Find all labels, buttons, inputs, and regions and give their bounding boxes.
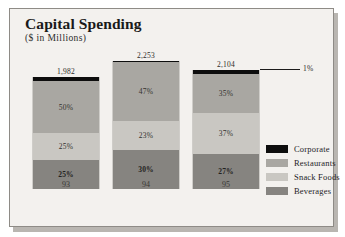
segment-snackfoods-95: 37% [193,113,259,154]
bar-94: 47% 23% 30% [112,61,180,189]
segment-snackfoods-93: 25% [33,133,99,160]
legend-swatch-restaurants [266,159,288,167]
page-title: Capital Spending [25,15,142,32]
bar-93: 50% 25% 25% [32,77,100,189]
legend-item-corporate: Corporate [266,142,340,155]
segment-restaurants-93: 50% [33,81,99,133]
plot-area: 1,982 50% 25% 25% 93 2,253 [24,57,264,207]
legend-label-restaurants: Restaurants [294,158,336,168]
legend-label-beverages: Beverages [294,186,331,196]
legend-swatch-corporate [266,145,288,153]
legend-swatch-snack-foods [266,173,288,181]
segment-label-restaurants-94: 47% [139,87,153,96]
segment-label-beverages-95: 27% [218,167,234,176]
category-label-93: 93 [32,180,100,189]
category-label-94: 94 [112,180,180,189]
legend-item-snack-foods: Snack Foods [266,170,340,183]
bar-group-93: 1,982 50% 25% 25% 93 [32,57,100,189]
bar-total-95: 2,104 [192,60,260,69]
segment-snackfoods-94: 23% [113,121,179,150]
chart-panel: Capital Spending ($ in Millions) 1,982 5… [9,8,334,227]
segment-label-snackfoods-94: 23% [139,131,153,140]
segment-label-beverages-94: 30% [138,165,154,174]
callout-label-1-percent: 1% [303,64,313,73]
segment-label-snackfoods-93: 25% [59,142,73,151]
segment-label-restaurants-93: 50% [59,103,73,112]
legend-swatch-beverages [266,187,288,195]
bar-group-94: 2,253 47% 23% 30% 94 [112,41,180,189]
title-block: Capital Spending ($ in Millions) [25,15,142,44]
legend: Corporate Restaurants Snack Foods Bevera… [266,142,340,198]
legend-item-restaurants: Restaurants [266,156,340,169]
bar-total-94: 2,253 [112,51,180,60]
segment-restaurants-95: 35% [193,74,259,113]
bar-95: 35% 37% 27% [192,70,260,189]
legend-label-snack-foods: Snack Foods [294,172,340,182]
segment-label-restaurants-95: 35% [219,89,233,98]
legend-item-beverages: Beverages [266,184,340,197]
callout-leader-line [260,69,300,70]
bar-group-95: 2,104 35% 37% 27% 95 [192,49,260,189]
segment-restaurants-94: 47% [113,62,179,121]
legend-label-corporate: Corporate [294,144,330,154]
bar-total-93: 1,982 [32,67,100,76]
category-label-95: 95 [192,180,260,189]
chart-screenshot: Capital Spending ($ in Millions) 1,982 5… [0,0,345,237]
segment-label-snackfoods-95: 37% [219,129,233,138]
segment-label-beverages-93: 25% [58,170,74,179]
